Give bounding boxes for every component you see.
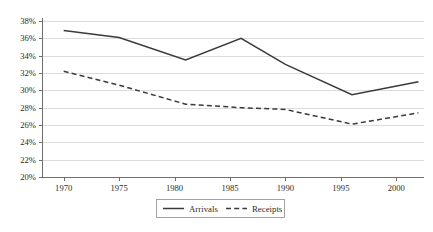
- y-axis-ticks: [39, 22, 42, 178]
- y-tick-label: 26%: [20, 120, 36, 130]
- y-tick-label: 20%: [20, 172, 36, 182]
- x-axis-tick-labels: 1970197519801985199019952000: [55, 183, 405, 193]
- x-tick-label: 1980: [166, 183, 183, 193]
- series-line-arrivals: [64, 31, 419, 95]
- y-tick-label: 36%: [20, 33, 36, 43]
- chart-legend: ArrivalsReceipts: [157, 200, 285, 218]
- x-tick-label: 2000: [388, 183, 405, 193]
- x-tick-label: 1970: [55, 183, 72, 193]
- y-tick-label: 22%: [20, 155, 36, 165]
- x-tick-label: 1990: [277, 183, 294, 193]
- line-chart: 38%36%34%32%30%28%26%24%22%20% 197019751…: [0, 0, 433, 232]
- x-tick-label: 1995: [332, 183, 349, 193]
- y-tick-label: 24%: [20, 137, 36, 147]
- y-tick-label: 34%: [20, 51, 36, 61]
- y-tick-label: 28%: [20, 103, 36, 113]
- chart-canvas: 38%36%34%32%30%28%26%24%22%20% 197019751…: [0, 0, 433, 232]
- y-tick-label: 38%: [20, 16, 36, 26]
- series-line-receipts: [64, 71, 419, 124]
- gridlines: [42, 22, 425, 178]
- y-tick-label: 30%: [20, 85, 36, 95]
- x-tick-label: 1975: [111, 183, 128, 193]
- y-axis-tick-labels: 38%36%34%32%30%28%26%24%22%20%: [20, 16, 36, 182]
- legend-label-receipts: Receipts: [252, 204, 283, 214]
- legend-label-arrivals: Arrivals: [189, 204, 218, 214]
- y-tick-label: 32%: [20, 68, 36, 78]
- x-tick-label: 1985: [221, 183, 238, 193]
- data-series: [64, 31, 419, 125]
